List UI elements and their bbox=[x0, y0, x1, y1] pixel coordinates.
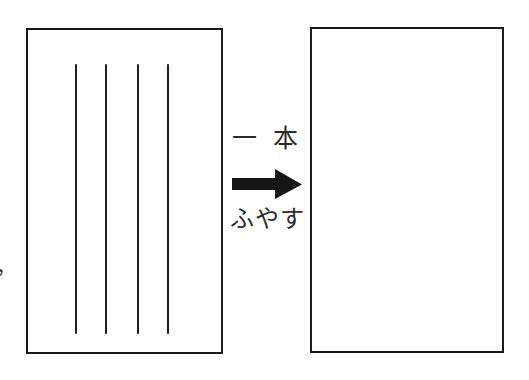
margin-glyph-fragment: ， bbox=[0, 258, 10, 276]
vertical-stroke bbox=[75, 64, 77, 334]
transformation-annotation: 一 本 ふやす bbox=[224, 124, 310, 246]
vertical-stroke bbox=[137, 64, 139, 334]
after-panel bbox=[310, 27, 504, 353]
before-panel bbox=[26, 28, 223, 354]
vertical-stroke bbox=[105, 64, 107, 334]
annotation-bottom-label: ふやす bbox=[224, 204, 310, 234]
right-arrow-icon bbox=[232, 169, 302, 199]
figure-canvas: ， 一 本 ふやす bbox=[0, 0, 529, 380]
annotation-top-label: 一 本 bbox=[224, 124, 310, 154]
vertical-stroke bbox=[167, 64, 169, 334]
